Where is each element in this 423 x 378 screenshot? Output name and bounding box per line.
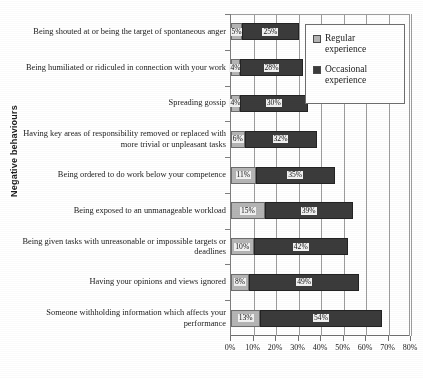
bar-row: 15%39% — [231, 202, 411, 219]
bar-value-label: 25% — [262, 28, 278, 36]
bar-value-label: 6% — [232, 135, 244, 143]
bar-segment: 35% — [256, 167, 335, 184]
x-axis-tick — [275, 336, 276, 341]
y-axis-tick — [225, 157, 230, 158]
bar-row: 6%32% — [231, 131, 411, 148]
x-axis-tick-label: 60% — [358, 343, 373, 352]
bar-segment: 49% — [249, 274, 359, 291]
stacked-bar-chart: Negative behaviours Being shouted at or … — [0, 0, 423, 378]
x-axis-tick-label: 80% — [403, 343, 418, 352]
y-axis-tick — [225, 300, 230, 301]
x-axis-tick-label: 0% — [225, 343, 236, 352]
x-axis-tick — [320, 336, 321, 341]
bar-value-label: 49% — [296, 278, 312, 286]
bar-row: 11%35% — [231, 167, 411, 184]
y-axis-tick — [225, 229, 230, 230]
category-label: Having key areas of responsibility remov… — [20, 129, 226, 150]
y-axis-tick — [225, 86, 230, 87]
legend-swatch-occasional — [313, 66, 321, 74]
bar-segment: 30% — [240, 95, 308, 112]
category-label-group: Being shouted at or being the target of … — [16, 14, 226, 336]
x-axis-tick — [230, 336, 231, 341]
bar-value-label: 39% — [301, 207, 317, 215]
bar-row: 13%54% — [231, 310, 411, 327]
x-axis-tick-label: 10% — [245, 343, 260, 352]
bar-segment: 39% — [265, 202, 353, 219]
category-label: Having your opinions and views ignored — [20, 277, 226, 288]
gridline — [411, 14, 412, 336]
plot-top-border — [231, 14, 409, 15]
bar-value-label: 42% — [293, 243, 309, 251]
bar-segment: 13% — [231, 310, 260, 327]
x-axis-tick — [410, 336, 411, 341]
legend-label: Occasional experience — [325, 64, 398, 86]
bar-segment: 25% — [242, 23, 298, 40]
bar-value-label: 35% — [287, 171, 303, 179]
bar-value-label: 11% — [236, 171, 252, 179]
bar-segment: 32% — [245, 131, 317, 148]
bar-value-label: 10% — [234, 243, 250, 251]
legend-item: Occasional experience — [313, 64, 398, 86]
bar-segment: 10% — [231, 238, 254, 255]
category-label: Spreading gossip — [20, 98, 226, 109]
legend-swatch-regular — [313, 35, 321, 43]
category-label: Being shouted at or being the target of … — [20, 27, 226, 38]
bar-value-label: 5% — [231, 28, 243, 36]
y-axis-tick — [225, 264, 230, 265]
x-axis-tick — [343, 336, 344, 341]
x-axis-tick-label: 40% — [313, 343, 328, 352]
bar-row: 8%49% — [231, 274, 411, 291]
bar-value-label: 8% — [234, 278, 246, 286]
bar-row: 10%42% — [231, 238, 411, 255]
x-axis-tick-label: 70% — [380, 343, 395, 352]
legend-label: Regular experience — [325, 33, 398, 55]
bar-segment: 15% — [231, 202, 265, 219]
legend-item: Regular experience — [313, 33, 398, 55]
category-label: Being exposed to an unmanageable workloa… — [20, 206, 226, 217]
category-label: Being humiliated or ridiculed in connect… — [20, 62, 226, 73]
x-axis-tick-label: 20% — [268, 343, 283, 352]
y-axis-tick — [225, 50, 230, 51]
chart-legend: Regular experienceOccasional experience — [305, 24, 405, 104]
x-axis-tick — [365, 336, 366, 341]
x-axis-tick — [298, 336, 299, 341]
bar-segment: 54% — [260, 310, 382, 327]
x-axis-tick-label: 50% — [335, 343, 350, 352]
x-axis-tick-label: 30% — [290, 343, 305, 352]
y-axis-tick — [225, 193, 230, 194]
bar-segment: 42% — [254, 238, 349, 255]
x-axis-tick — [388, 336, 389, 341]
category-label: Someone withholding information which af… — [20, 308, 226, 329]
bar-value-label: 54% — [313, 314, 329, 322]
category-label: Being given tasks with unreasonable or i… — [20, 236, 226, 257]
bar-segment: 4% — [231, 59, 240, 76]
x-axis-tick — [253, 336, 254, 341]
bar-value-label: 32% — [273, 135, 289, 143]
category-label: Being ordered to do work below your comp… — [20, 170, 226, 181]
bar-value-label: 30% — [266, 99, 282, 107]
y-axis-tick — [225, 121, 230, 122]
bar-segment: 5% — [231, 23, 242, 40]
bar-value-label: 28% — [264, 64, 280, 72]
bar-segment: 11% — [231, 167, 256, 184]
bar-value-label: 15% — [240, 207, 256, 215]
bar-segment: 8% — [231, 274, 249, 291]
bar-segment: 6% — [231, 131, 245, 148]
bar-value-label: 13% — [238, 314, 254, 322]
y-axis-tick — [225, 14, 230, 15]
bar-segment: 28% — [240, 59, 303, 76]
bar-segment: 4% — [231, 95, 240, 112]
